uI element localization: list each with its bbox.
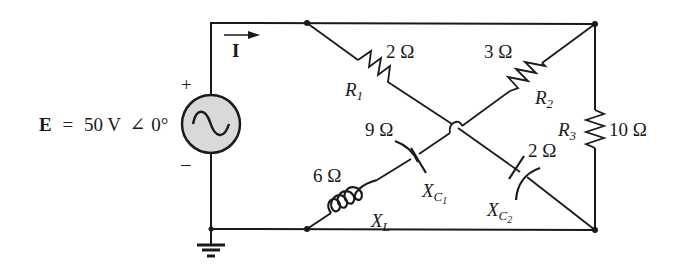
xc2-label: XC2 [486,199,512,225]
ac-voltage-source [182,95,240,153]
xc1-value: 9 Ω [365,119,393,140]
source-label: E = 50 V ∠ 0° [39,114,168,135]
capacitor-xc2-plate-flat [509,156,524,179]
xl-label: XL [370,210,390,234]
ground-icon [197,229,225,256]
r1-value: 2 Ω [386,41,414,62]
r3-label: R3 [557,119,577,143]
r1-label: R1 [344,79,363,103]
resistor-r3-icon [586,110,604,148]
source-symbol: E [39,114,52,135]
r2-value: 3 Ω [484,41,512,62]
source-magnitude: 50 V [84,114,121,135]
source-equals: = [62,114,73,135]
xc1-label: XC1 [421,180,447,206]
r2-label: R2 [534,87,554,111]
xl-value: 6 Ω [313,165,341,186]
capacitor-xc1-plate-curved [395,141,418,162]
circuit-diagram: + – E = 50 V ∠ 0° I [0,0,689,276]
arrow-head-icon [248,31,260,39]
r3-value: 10 Ω [609,119,647,140]
source-minus-sign: – [180,153,191,174]
current-arrow [224,31,260,39]
crossover-hump [450,122,462,133]
current-label: I [232,40,239,61]
angle-symbol: ∠ [129,114,145,135]
xc2-value: 2 Ω [528,140,556,161]
source-phase: 0° [151,114,168,135]
source-plus-sign: + [181,74,192,95]
